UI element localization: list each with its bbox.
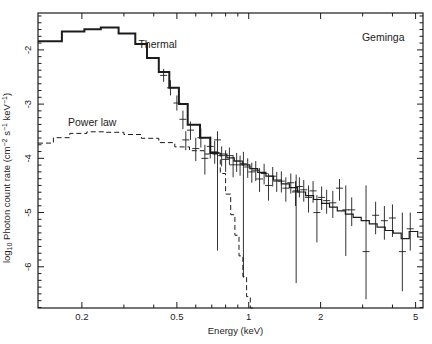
thermal-label: Thermal [138,38,177,50]
x-tick-label-5: 5 [413,311,418,322]
x-tick-label-2: 2 [318,311,323,322]
screenshot-root: 0.20.5125-2-3-4-5-6Energy (keV)log10​ Ph… [0,0,432,344]
y-tick-label--3: -3 [22,100,33,108]
power-law-curve [38,132,219,154]
x-axis-title: Energy (keV) [208,325,263,336]
power-law-label: Power law [68,116,117,128]
y-tick-label--5: -5 [22,208,33,216]
y-tick-label--4: -4 [22,154,33,162]
axis-ticks [38,13,423,308]
y-tick-label--6: -6 [22,263,33,271]
spectrum-figure: 0.20.5125-2-3-4-5-6Energy (keV)log10​ Ph… [0,0,432,344]
plot-frame [38,13,423,308]
y-tick-label--2: -2 [22,46,33,54]
x-tick-label-1: 1 [246,311,251,322]
y-axis-title: log10​ Photon count rate (cm−2​ s−1​ keV… [1,93,13,263]
x-tick-label-0.5: 0.5 [170,311,183,322]
x-tick-label-0.2: 0.2 [75,311,88,322]
thermal-cutoff-curve [219,153,254,308]
source-label: Geminga [362,31,405,43]
spectrum-plot: 0.20.5125-2-3-4-5-6Energy (keV)log10​ Ph… [0,0,432,344]
